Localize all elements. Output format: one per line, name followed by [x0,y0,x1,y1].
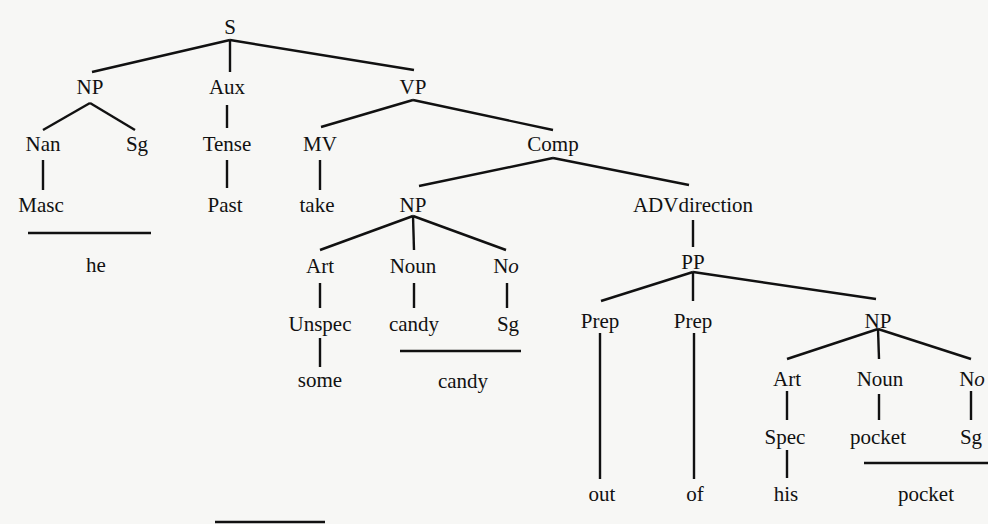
tree-node-vp: VP [400,77,427,98]
tree-branch [878,329,971,359]
tree-branch [321,100,413,127]
tree-branch [878,329,879,359]
tree-branch [90,103,135,130]
tree-node-candy1: candy [389,314,439,335]
tree-node-take: take [300,195,335,216]
tree-node-prep2: Prep [674,311,713,332]
tree-node-prep1: Prep [581,311,620,332]
tree-node-masc: Masc [18,195,64,216]
tree-node-comp: Comp [527,134,578,155]
tree-branch [92,40,230,72]
tree-node-s: S [224,17,236,38]
tree-branch [553,158,689,185]
tree-node-sg2: Sg [497,314,519,335]
tree-branch [320,216,413,250]
tree-node-candy2: candy [438,371,488,392]
tree-branch [419,158,553,186]
tree-branch [693,272,876,299]
tree-node-he: he [86,255,106,276]
tree-node-sg3: Sg [960,427,982,448]
tree-branch [230,40,414,70]
tree-node-aux: Aux [209,77,245,98]
tree-node-mv: MV [303,134,337,155]
tree-node-no1: No [493,256,519,277]
tree-node-advdir: ADVdirection [633,195,753,216]
tree-node-of: of [686,484,704,505]
tree-branch [413,100,553,130]
tree-node-np1: NP [77,77,104,98]
tree-node-noun2: Noun [857,369,904,390]
tree-node-nan: Nan [26,134,61,155]
syntax-tree-diagram: SNPAuxVPNanSgTenseMVCompMascPasttakeNPAD… [0,0,988,524]
tree-node-tense: Tense [203,134,252,155]
tree-node-sg1: Sg [126,134,148,155]
tree-branch [601,272,693,301]
tree-node-his: his [774,484,799,505]
tree-node-unspec: Unspec [289,314,352,335]
tree-branch [43,103,90,130]
tree-node-np2: NP [400,195,427,216]
tree-branch [787,329,878,359]
tree-node-out: out [589,484,616,505]
tree-node-pocket1: pocket [850,427,906,448]
tree-node-spec: Spec [765,427,806,448]
tree-branch [413,216,506,250]
tree-node-np3: NP [865,311,892,332]
tree-node-no2: No [959,369,985,390]
tree-branch [413,216,414,250]
tree-node-some: some [298,370,342,391]
tree-node-noun1: Noun [390,256,437,277]
tree-node-art1: Art [306,256,334,277]
tree-node-past: Past [207,195,242,216]
tree-node-pp: PP [681,252,704,273]
tree-node-pocket2: pocket [898,484,954,505]
tree-node-art2: Art [773,369,801,390]
